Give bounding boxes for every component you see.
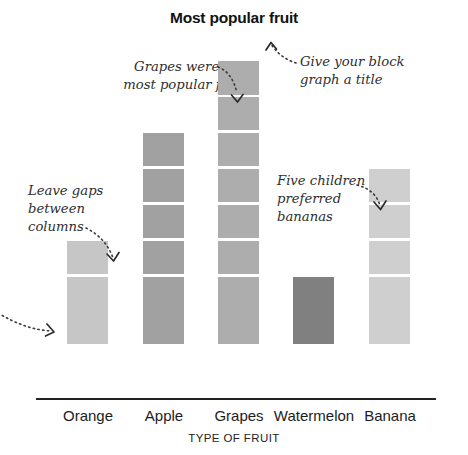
bar-orange	[67, 238, 108, 344]
block-grapes-7	[218, 97, 259, 131]
bars-container	[0, 0, 468, 400]
block-apple-5	[143, 169, 184, 203]
block-watermelon-2	[293, 277, 334, 311]
bar-grapes	[218, 59, 259, 344]
block-grapes-5	[218, 169, 259, 203]
block-grapes-2	[218, 277, 259, 311]
block-grapes-6	[218, 133, 259, 167]
block-apple-3	[143, 241, 184, 275]
block-grapes-1	[218, 310, 259, 344]
block-banana-4	[369, 205, 410, 239]
block-banana-3	[369, 241, 410, 275]
block-watermelon-1	[293, 310, 334, 344]
bar-apple	[143, 130, 184, 344]
block-apple-2	[143, 277, 184, 311]
x-axis-tick-labels: Orange Apple Grapes Watermelon Banana	[0, 407, 468, 433]
block-grapes-4	[218, 205, 259, 239]
x-axis-line	[36, 398, 436, 400]
block-orange-2	[67, 277, 108, 311]
bar-watermelon	[293, 274, 334, 344]
block-grapes-3	[218, 241, 259, 275]
block-graph-figure: Most popular fruit Grapes were the most …	[0, 0, 468, 455]
block-banana-1	[369, 310, 410, 344]
x-tick-label-watermelon: Watermelon	[274, 407, 354, 424]
block-orange-3	[67, 241, 108, 275]
block-orange-1	[67, 310, 108, 344]
bar-banana	[369, 166, 410, 344]
x-tick-label-apple: Apple	[145, 407, 183, 424]
x-tick-label-grapes: Grapes	[214, 407, 263, 424]
block-apple-1	[143, 310, 184, 344]
block-apple-6	[143, 133, 184, 167]
x-axis-title: TYPE OF FRUIT	[0, 432, 468, 444]
block-apple-4	[143, 205, 184, 239]
x-tick-label-orange: Orange	[63, 407, 113, 424]
block-banana-2	[369, 277, 410, 311]
x-tick-label-banana: Banana	[364, 407, 416, 424]
block-grapes-8	[218, 61, 259, 95]
block-banana-5	[369, 169, 410, 203]
